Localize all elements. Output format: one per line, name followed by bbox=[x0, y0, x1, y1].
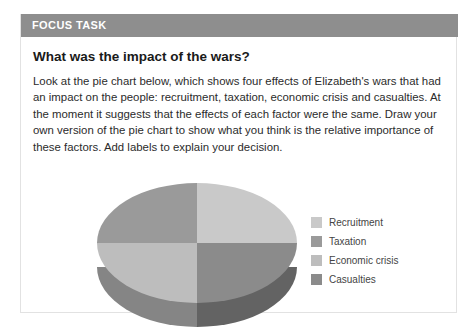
page-title: What was the impact of the wars? bbox=[33, 49, 250, 64]
card-header-bar: FOCUS TASK bbox=[21, 14, 458, 37]
legend-item-economic-crisis: Economic crisis bbox=[311, 251, 446, 270]
card-header-title: FOCUS TASK bbox=[32, 19, 107, 31]
legend-label: Economic crisis bbox=[329, 255, 398, 266]
legend-label: Taxation bbox=[329, 236, 366, 247]
pie-chart-legend: Recruitment Taxation Economic crisis Cas… bbox=[311, 213, 446, 289]
legend-swatch-icon bbox=[311, 255, 322, 266]
focus-task-card: FOCUS TASK What was the impact of the wa… bbox=[20, 14, 457, 313]
card-body: What was the impact of the wars? Look at… bbox=[21, 37, 458, 313]
legend-item-casualties: Casualties bbox=[311, 270, 446, 289]
legend-swatch-icon bbox=[311, 217, 322, 228]
legend-swatch-icon bbox=[311, 236, 322, 247]
task-instructions-paragraph: Look at the pie chart below, which shows… bbox=[33, 73, 447, 155]
legend-label: Recruitment bbox=[329, 217, 383, 228]
pie-chart-top bbox=[95, 180, 299, 306]
pie-chart-figure bbox=[95, 180, 299, 306]
legend-item-recruitment: Recruitment bbox=[311, 213, 446, 232]
legend-swatch-icon bbox=[311, 274, 322, 285]
legend-label: Casualties bbox=[329, 274, 376, 285]
legend-item-taxation: Taxation bbox=[311, 232, 446, 251]
